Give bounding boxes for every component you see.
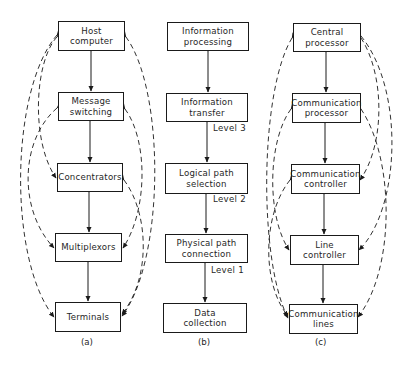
box-message-switching: Message switching — [58, 92, 124, 121]
dashed-central-commlines-left — [267, 38, 292, 318]
dashed-host-terminals-right — [122, 37, 155, 316]
level-1-label: Level 1 — [211, 265, 244, 275]
box-concentrators: Concentrators — [57, 163, 123, 192]
box-information-processing: Information processing — [167, 22, 249, 51]
box-communication-lines: Communication lines — [289, 304, 358, 334]
box-host-computer: Host computer — [58, 21, 125, 51]
level-2-label: Level 2 — [213, 194, 246, 204]
caption-a: (a) — [81, 337, 93, 347]
box-information-transfer: Information transfer — [166, 93, 248, 122]
box-terminals: Terminals — [55, 302, 121, 332]
box-communication-processor: Communication processor — [292, 93, 361, 123]
box-physical-path-connection: Physical path connection — [165, 234, 248, 263]
caption-c: (c) — [315, 337, 326, 347]
dashed-commcontroller-commlines-left — [269, 180, 290, 316]
box-central-processor: Central processor — [293, 23, 361, 52]
box-logical-path-selection: Logical path selection — [165, 163, 248, 194]
level-3-label: Level 3 — [213, 123, 246, 133]
dashed-commproc-commlines-right — [358, 109, 386, 317]
dashed-host-terminals-left — [21, 35, 57, 317]
box-communication-controller: Communication controller — [291, 164, 360, 194]
dashed-msgswitch-multiplexors-left — [28, 108, 57, 248]
box-line-controller: Line controller — [290, 235, 359, 265]
dashed-central-commcontroller-right — [360, 38, 379, 180]
box-multiplexors: Multiplexors — [55, 233, 122, 262]
box-data-collection: Data collection — [163, 303, 247, 333]
caption-b: (b) — [198, 337, 210, 347]
dashed-host-concentrators-left — [38, 37, 57, 178]
dashed-msgswitch-multiplexors-right — [123, 109, 142, 248]
dashed-central-linecontroller-right — [359, 36, 392, 250]
dashed-commproc-linecontroller-left — [273, 109, 291, 250]
